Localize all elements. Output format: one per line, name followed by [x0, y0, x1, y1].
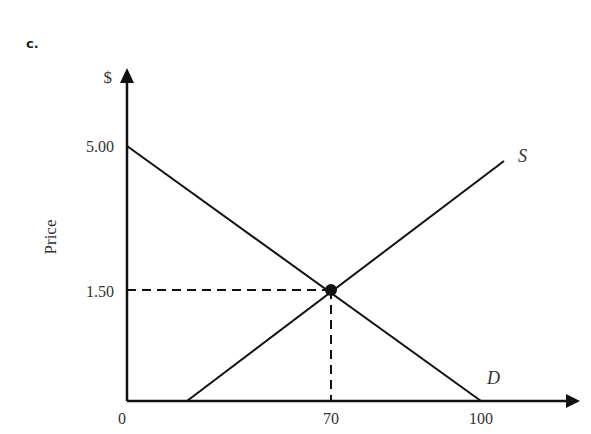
y-axis-label: Price [41, 220, 60, 255]
demand-curve [127, 146, 481, 401]
y-tick-1-5: 1.50 [86, 283, 114, 300]
supply-label: S [518, 146, 527, 166]
y-tick-5: 5.00 [86, 138, 114, 155]
supply-demand-chart: $ 5.00 1.50 Price 0 70 100 S D [0, 0, 591, 434]
supply-curve [187, 161, 504, 401]
x-axis-arrow-icon [566, 394, 580, 408]
equilibrium-point [325, 284, 337, 296]
x-tick-100: 100 [469, 410, 493, 427]
demand-label: D [486, 368, 500, 388]
x-tick-0: 0 [118, 410, 126, 427]
x-tick-70: 70 [323, 410, 339, 427]
y-unit-label: $ [104, 68, 113, 87]
y-axis-arrow-icon [120, 68, 134, 83]
